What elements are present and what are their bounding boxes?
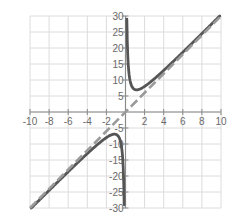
y-tick-label: 30 [112, 11, 124, 22]
x-tick-label: 2 [142, 116, 148, 127]
x-tick-label: 8 [199, 116, 205, 127]
y-tick-label: 10 [112, 75, 124, 86]
y-tick-label: 15 [112, 59, 124, 70]
x-tick-label: -4 [83, 116, 92, 127]
curve-branch [127, 16, 220, 90]
x-tick-label: -10 [23, 116, 38, 127]
y-tick-label: -25 [109, 187, 124, 198]
x-tick-label: 6 [180, 116, 186, 127]
y-tick-label: 20 [112, 43, 124, 54]
x-tick-label: 4 [161, 116, 167, 127]
x-tick-label: 10 [215, 116, 227, 127]
x-tick-label: -8 [45, 116, 54, 127]
y-tick-label: 5 [118, 91, 124, 102]
x-tick-label: -2 [102, 116, 111, 127]
y-tick-label: -30 [109, 203, 124, 214]
function-graph: -10-8-6-4-224681030252015105-5-10-15-20-… [0, 0, 238, 224]
y-tick-label: 25 [112, 27, 124, 38]
y-tick-label: -20 [109, 171, 124, 182]
y-tick-label: -5 [115, 123, 124, 134]
x-tick-label: -6 [64, 116, 73, 127]
